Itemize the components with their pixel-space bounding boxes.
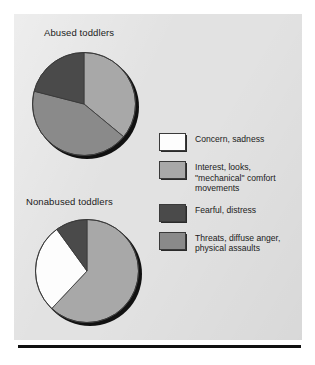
legend-swatch-threats-anger: [159, 232, 186, 250]
chart-title-abused-toddlers: Abused toddlers: [44, 27, 114, 38]
pie-chart-abused-toddlers: [32, 52, 138, 158]
legend-item-concern-sadness: Concern, sadness: [159, 132, 301, 151]
legend-item-interest-looks: Interest, looks, "mechanical" comfort mo…: [159, 160, 301, 194]
pie-chart-nonabused-toddlers: [35, 219, 141, 325]
legend-label-interest-looks: Interest, looks, "mechanical" comfort mo…: [195, 160, 276, 194]
figure-panel: Abused toddlers Nonabused toddlers Conce…: [0, 0, 315, 365]
legend-label-fearful-distress: Fearful, distress: [195, 203, 256, 216]
pie-nonabused-svg: [35, 219, 141, 325]
legend: Concern, sadness Interest, looks, "mecha…: [159, 132, 301, 263]
pie-abused-svg: [32, 52, 138, 158]
chart-title-nonabused-toddlers: Nonabused toddlers: [26, 196, 113, 207]
legend-swatch-fearful-distress: [159, 204, 186, 222]
legend-item-fearful-distress: Fearful, distress: [159, 203, 301, 222]
legend-swatch-box: [159, 161, 186, 179]
legend-swatch-concern-sadness: [159, 133, 186, 151]
legend-label-threats-anger: Threats, diffuse anger, physical assault…: [195, 231, 280, 254]
legend-swatch-interest-looks: [159, 161, 186, 179]
legend-swatch-box: [159, 204, 186, 222]
legend-label-concern-sadness: Concern, sadness: [195, 132, 264, 145]
legend-swatch-box: [159, 232, 186, 250]
pie-slices-nonabused: [35, 220, 138, 323]
legend-swatch-box: [159, 133, 186, 151]
bottom-horizontal-rule: [18, 345, 301, 348]
pie-slices-abused: [32, 53, 135, 156]
legend-item-threats-anger: Threats, diffuse anger, physical assault…: [159, 231, 301, 254]
